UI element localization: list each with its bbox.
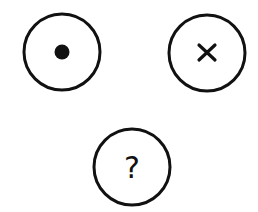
diagram-canvas: ? — [0, 0, 258, 212]
dot-icon — [55, 45, 70, 60]
question-node: ? — [94, 129, 170, 205]
x-node — [169, 15, 245, 91]
question-icon: ? — [124, 150, 140, 185]
dot-node — [24, 14, 100, 90]
